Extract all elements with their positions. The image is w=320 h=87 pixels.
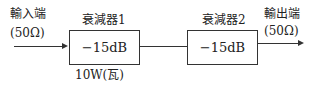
input-impedance: (50Ω) — [10, 26, 45, 40]
output-impedance: (50Ω) — [264, 24, 299, 38]
attenuator2-title: 衰減器2 — [202, 13, 246, 27]
attenuator1-box: −15dB — [69, 30, 140, 65]
output-arrow-icon — [298, 40, 304, 46]
connector-line — [139, 46, 187, 47]
attenuator1-power: 10W(瓦) — [75, 68, 124, 82]
output-line — [257, 43, 298, 44]
output-label: 輸出端 — [264, 7, 300, 21]
attenuator2-box: −15dB — [187, 30, 258, 65]
input-line — [14, 46, 62, 47]
input-arrow-icon — [62, 43, 68, 49]
input-label: 輸入端 — [10, 7, 46, 21]
attenuator2-value: −15dB — [200, 40, 245, 55]
attenuator1-title: 衰減器1 — [82, 13, 126, 27]
attenuator1-value: −15dB — [82, 40, 127, 55]
